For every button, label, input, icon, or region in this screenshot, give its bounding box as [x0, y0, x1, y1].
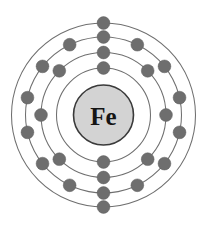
electron-l-6	[53, 153, 66, 166]
electron-n-2	[97, 201, 110, 214]
electron-k-2	[97, 156, 110, 169]
electron-l-5	[97, 171, 110, 184]
electron-m-6	[158, 157, 171, 170]
electron-m-8	[97, 187, 110, 200]
electron-m-9	[63, 179, 76, 192]
nucleus-group: Fe	[74, 85, 134, 145]
electron-m-5	[173, 126, 186, 139]
electron-m-4	[173, 91, 186, 104]
nucleus-element-symbol: Fe	[90, 103, 116, 130]
electron-k-1	[97, 62, 110, 75]
electron-m-7	[131, 179, 144, 192]
electron-n-1	[97, 17, 110, 30]
electron-l-8	[53, 64, 66, 77]
electron-l-2	[141, 64, 154, 77]
electron-l-1	[97, 46, 110, 59]
electron-l-3	[160, 109, 173, 122]
electron-m-14	[63, 38, 76, 51]
electron-m-13	[36, 60, 49, 73]
electron-m-3	[158, 60, 171, 73]
electron-m-10	[36, 157, 49, 170]
electron-l-4	[141, 153, 154, 166]
electron-l-7	[35, 109, 48, 122]
electron-m-2	[131, 38, 144, 51]
bohr-model-figure: Fe	[0, 0, 207, 227]
electron-m-11	[21, 126, 34, 139]
electron-m-1	[97, 31, 110, 44]
electron-m-12	[21, 91, 34, 104]
atom-diagram-canvas: Fe	[0, 0, 207, 227]
